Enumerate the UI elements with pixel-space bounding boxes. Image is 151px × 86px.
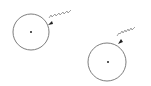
wavy-photon-line xyxy=(117,27,135,36)
wavy-photon-line xyxy=(49,10,71,18)
atom-2 xyxy=(88,27,135,81)
arrowhead-icon xyxy=(118,39,123,44)
diagram-canvas xyxy=(0,0,151,86)
arrowhead-icon xyxy=(48,21,53,25)
nucleus-dot xyxy=(30,31,32,33)
nucleus-dot xyxy=(107,61,109,63)
atom-1 xyxy=(13,10,71,50)
